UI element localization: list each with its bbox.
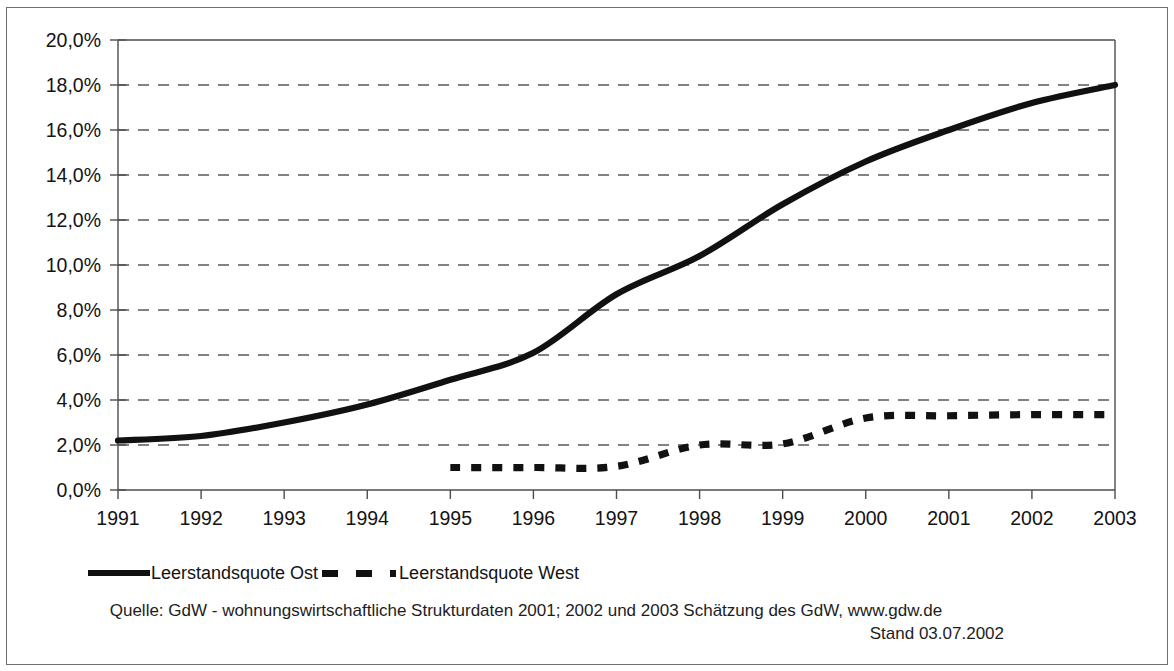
x-tick-label: 1993 xyxy=(262,507,305,529)
x-tick-label: 2001 xyxy=(927,507,970,529)
source-line-primary: Quelle: GdW - wohnungswirtschaftliche St… xyxy=(0,600,1052,623)
source-line-date: Stand 03.07.2002 xyxy=(0,623,1052,646)
chart-page: 0,0%2,0%4,0%6,0%8,0%10,0%12,0%14,0%16,0%… xyxy=(0,0,1174,671)
y-tick-label: 12,0% xyxy=(46,209,101,231)
x-tick-label: 1996 xyxy=(512,507,555,529)
legend-dashed-line-icon xyxy=(322,570,396,577)
y-tick-label: 2,0% xyxy=(57,434,101,456)
chart-legend: Leerstandsquote Ost Leerstandsquote West xyxy=(0,556,1174,590)
legend-item-ost: Leerstandsquote Ost xyxy=(88,564,318,582)
x-tick-label: 2002 xyxy=(1010,507,1053,529)
gridline-group xyxy=(118,85,1115,445)
y-axis-tick-labels: 0,0%2,0%4,0%6,0%8,0%10,0%12,0%14,0%16,0%… xyxy=(46,29,101,501)
y-tick-label: 8,0% xyxy=(57,299,101,321)
legend-item-west: Leerstandsquote West xyxy=(318,564,579,582)
source-note: Quelle: GdW - wohnungswirtschaftliche St… xyxy=(0,600,1174,646)
x-tick-label: 1992 xyxy=(179,507,222,529)
y-tick-label: 6,0% xyxy=(57,344,101,366)
y-tick-label: 18,0% xyxy=(46,74,101,96)
series-line-leerstandsquote-ost xyxy=(118,85,1115,441)
x-tick-label: 2003 xyxy=(1093,507,1136,529)
legend-solid-line-icon xyxy=(88,570,150,576)
legend-label-ost: Leerstandsquote Ost xyxy=(151,564,318,582)
y-tick-label: 16,0% xyxy=(46,119,101,141)
y-tick-label: 10,0% xyxy=(46,254,101,276)
x-tick-label: 1991 xyxy=(96,507,139,529)
y-tick-label: 20,0% xyxy=(46,29,101,51)
x-tick-label: 1995 xyxy=(429,507,473,529)
x-axis-tick-labels: 1991199219931994199519961997199819992000… xyxy=(96,507,1136,529)
x-tick-label: 1999 xyxy=(761,507,804,529)
y-tick-label: 0,0% xyxy=(57,479,101,501)
y-tick-label: 4,0% xyxy=(57,389,101,411)
series-line-leerstandsquote-west xyxy=(450,415,1115,469)
y-tick-label: 14,0% xyxy=(46,164,101,186)
x-tick-label: 2000 xyxy=(844,507,888,529)
x-tick-label: 1998 xyxy=(678,507,721,529)
x-tick-label: 1997 xyxy=(595,507,638,529)
x-tick-label: 1994 xyxy=(346,507,390,529)
legend-label-west: Leerstandsquote West xyxy=(399,564,579,582)
x-tick-mark-group xyxy=(118,490,1115,499)
